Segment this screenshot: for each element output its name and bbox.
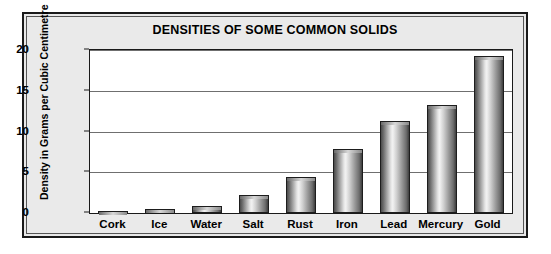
bar [474,56,504,213]
bar-body [239,195,269,213]
bar [239,195,269,213]
bar [333,149,363,213]
bar-body [286,177,316,213]
y-axis-tick-label: 0 [0,206,29,218]
bar [380,121,410,213]
x-axis-tick-label: Gold [446,218,530,230]
bar-body [192,206,222,213]
bar [286,177,316,213]
bar [192,206,222,213]
bar-cap [428,106,456,109]
bar-cap [240,196,268,199]
y-axis-label: Density in Grams per Cubic Centimetre [38,14,50,200]
bar-body [145,209,175,213]
y-axis-tick-label: 20 [0,43,29,55]
bar [98,211,128,213]
bar-cap [193,207,221,210]
chart-title: DENSITIES OF SOME COMMON SOLIDS [27,23,523,37]
bar-cap [99,212,127,215]
bar-cap [475,57,503,60]
plot-area [89,49,513,214]
bar-cap [381,122,409,125]
bar [145,209,175,213]
bar-body [427,105,457,213]
bar-body [333,149,363,213]
y-axis-tick-label: 10 [0,125,29,137]
y-axis-tick-label: 15 [0,84,29,96]
y-axis-tick-label: 5 [0,165,29,177]
bar-body [474,56,504,213]
chart-figure: DENSITIES OF SOME COMMON SOLIDS Density … [22,12,528,238]
bar-cap [334,150,362,153]
bar-cap [146,210,174,213]
chart-panel: DENSITIES OF SOME COMMON SOLIDS Density … [26,16,524,234]
bar-series [90,50,512,213]
bar [427,105,457,213]
bar-cap [287,178,315,181]
bar-body [98,211,128,213]
bar-body [380,121,410,213]
